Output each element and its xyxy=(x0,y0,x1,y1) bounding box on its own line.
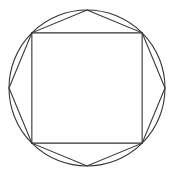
inscribed-square xyxy=(32,33,142,143)
geometry-diagram xyxy=(0,0,174,179)
